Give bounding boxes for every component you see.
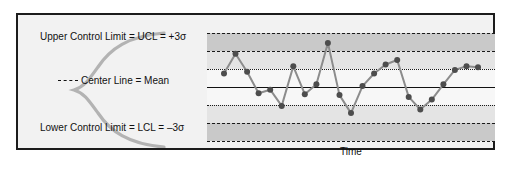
series-polyline — [224, 43, 478, 113]
data-series — [207, 20, 495, 140]
data-point — [371, 71, 377, 77]
data-point — [325, 40, 331, 46]
data-point — [440, 81, 446, 87]
data-point — [302, 91, 308, 97]
lcl-label: Lower Control Limit = LCL = –3σ — [40, 122, 184, 133]
center-line-dash-marker — [58, 80, 78, 81]
series-markers — [221, 40, 481, 116]
data-point — [313, 81, 319, 87]
data-point — [348, 110, 354, 116]
plot-area: Time — [207, 20, 495, 140]
control-chart-figure: Upper Control Limit = UCL = +3σ Center L… — [0, 0, 517, 172]
data-point — [394, 57, 400, 63]
chart-panel: Upper Control Limit = UCL = +3σ Center L… — [16, 13, 495, 150]
x-axis-label: Time — [207, 146, 495, 157]
ucl-label: Upper Control Limit = UCL = +3σ — [40, 31, 186, 42]
data-point — [452, 67, 458, 73]
lcl-line — [207, 141, 495, 142]
data-point — [221, 71, 227, 77]
data-point — [233, 51, 239, 57]
data-point — [256, 90, 262, 96]
data-point — [406, 94, 412, 100]
data-point — [429, 97, 435, 103]
data-point — [383, 62, 389, 68]
data-point — [267, 87, 273, 93]
data-point — [279, 103, 285, 109]
data-point — [475, 64, 481, 70]
center-line-label: Center Line = Mean — [81, 75, 169, 86]
data-point — [417, 107, 423, 113]
data-point — [244, 69, 250, 75]
data-point — [464, 63, 470, 69]
data-point — [360, 83, 366, 89]
data-point — [290, 63, 296, 69]
data-point — [337, 92, 343, 98]
